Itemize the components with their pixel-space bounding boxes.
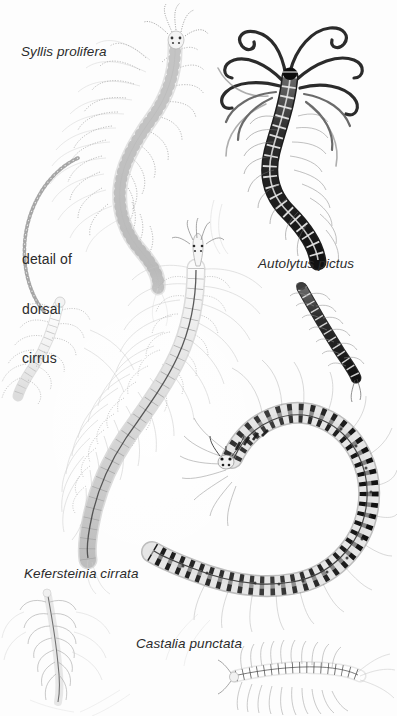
illustration-plate: Syllis prolifera detail of dorsal cirrus… [0, 0, 397, 716]
detail-line-1: detail of [22, 251, 72, 268]
label-castalia-punctata: Castalia punctata [136, 636, 242, 652]
label-syllis-prolifera: Syllis prolifera [21, 44, 107, 60]
label-kefersteinia-cirrata: Kefersteinia cirrata [24, 566, 139, 582]
label-autolytus-pictus: Autolytus pictus [258, 256, 354, 272]
label-dorsal-cirrus-detail: detail of dorsal cirrus [22, 218, 72, 400]
detail-line-2: dorsal [22, 301, 72, 318]
detail-line-3: cirrus [22, 350, 72, 367]
